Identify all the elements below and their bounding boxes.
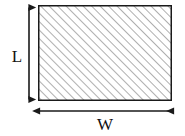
- length-label: L: [12, 47, 22, 66]
- hatched-rectangle-fill: [39, 6, 172, 101]
- geometry-figure: L W: [0, 0, 185, 136]
- rectangle-diagram-svg: L W: [0, 0, 185, 136]
- width-label: W: [97, 115, 114, 134]
